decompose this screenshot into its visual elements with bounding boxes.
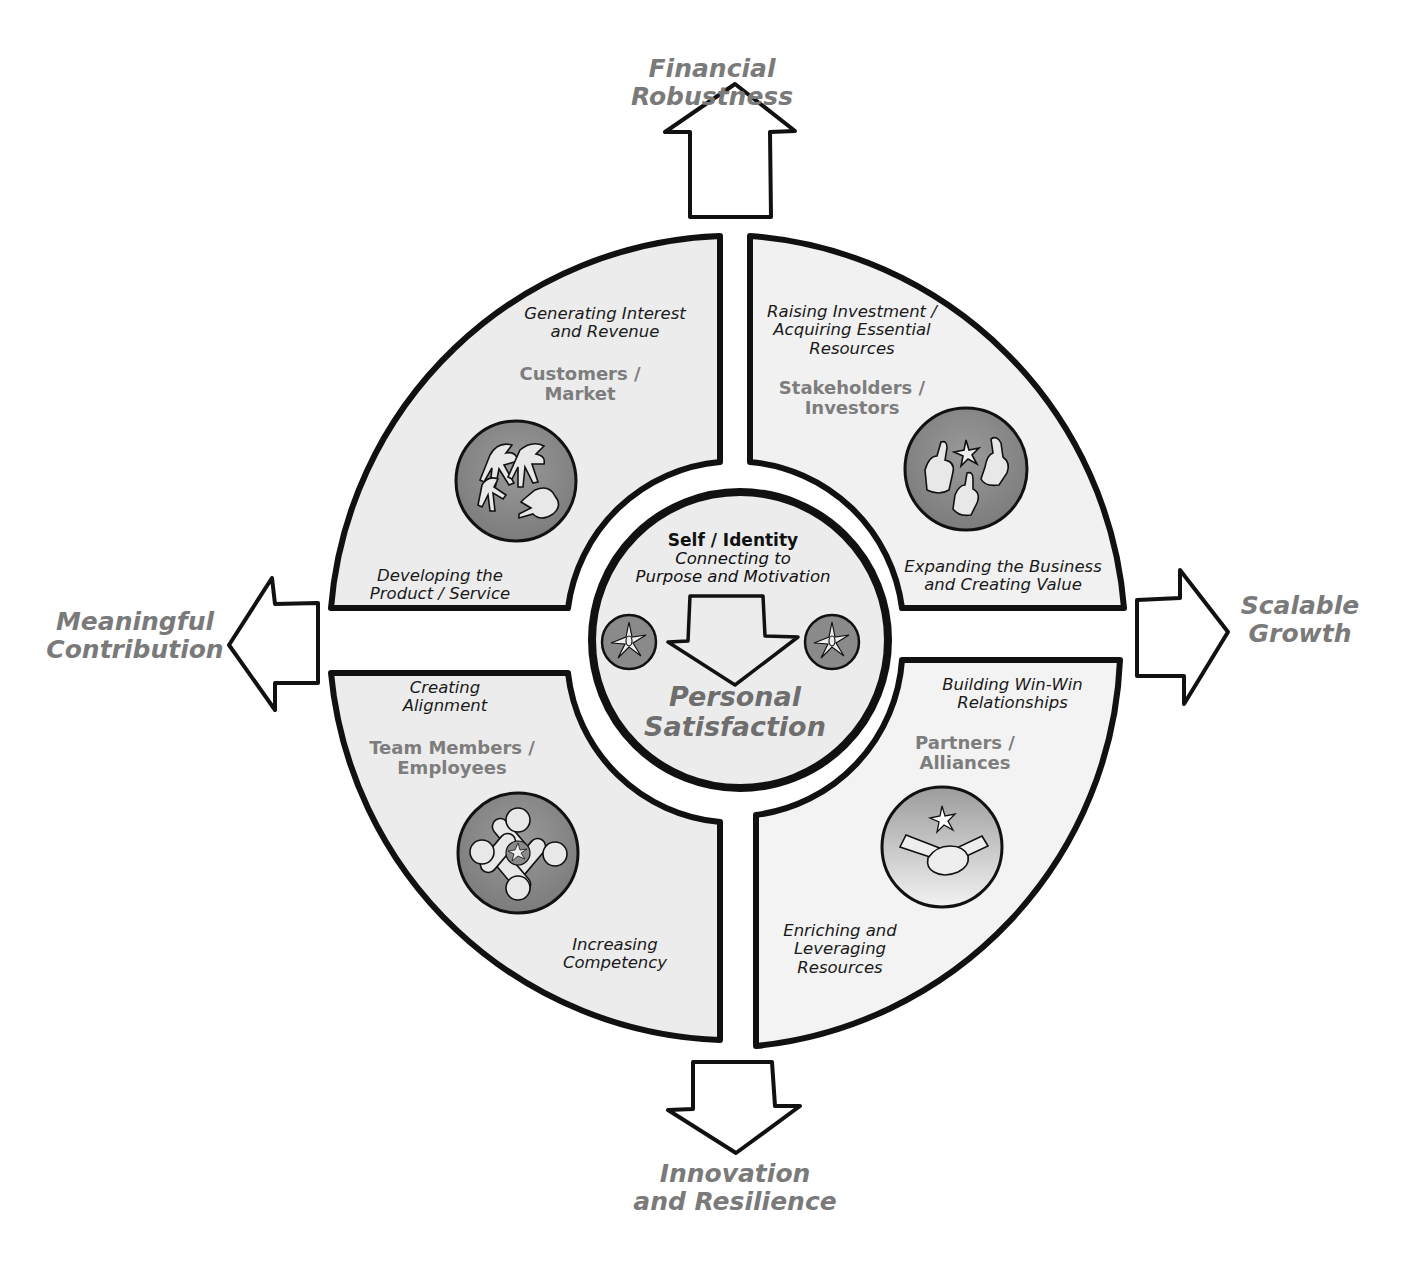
center-sub-line: Purpose and Motivation [603, 568, 863, 586]
stakeholder-line: Team Members / [352, 738, 552, 758]
outcome-line: Robustness [612, 83, 812, 111]
stakeholder-line: Alliances [905, 753, 1025, 773]
outcome-label-bottom: Innovation and Resilience [610, 1160, 860, 1216]
arrow-down-icon [668, 1062, 800, 1153]
outcome-label-top: Financial Robustness [612, 55, 812, 111]
activity-line: Product / Service [340, 585, 540, 603]
center-subtitle: Connecting to Purpose and Motivation [603, 550, 863, 587]
center-sub-line: Connecting to [603, 550, 863, 568]
stakeholder-line: Customers / [480, 364, 680, 384]
outcome-line: Contribution [30, 636, 240, 664]
outcome-label-left: Meaningful Contribution [30, 608, 240, 664]
activity-expanding-business: Expanding the Business and Creating Valu… [888, 558, 1118, 595]
activity-line: Raising Investment / [752, 303, 952, 321]
stakeholder-line: Market [480, 384, 680, 404]
center-title: Self / Identity [633, 531, 833, 550]
activity-line: Competency [545, 954, 685, 972]
spark-icon [805, 615, 859, 669]
activity-line: and Revenue [500, 323, 710, 341]
stakeholder-partners: Partners / Alliances [905, 733, 1025, 773]
arrow-right-icon [1137, 570, 1228, 704]
stakeholder-customers: Customers / Market [480, 364, 680, 404]
outcome-line: Innovation [610, 1160, 860, 1188]
stakeholder-investors: Stakeholders / Investors [752, 378, 952, 418]
activity-increasing-competency: Increasing Competency [545, 936, 685, 973]
linked-hands-icon [458, 793, 578, 913]
stakeholder-line: Employees [352, 758, 552, 778]
activity-raising-investment: Raising Investment / Acquiring Essential… [752, 303, 952, 358]
outcome-label-right: Scalable Growth [1220, 592, 1380, 648]
activity-line: Building Win-Win [925, 676, 1100, 694]
stakeholder-line: Investors [752, 398, 952, 418]
activity-creating-alignment: Creating Alignment [370, 679, 520, 716]
activity-line: Increasing [545, 936, 685, 954]
stakeholder-line: Stakeholders / [752, 378, 952, 398]
spark-icon [602, 615, 656, 669]
outcome-line: and Resilience [610, 1188, 860, 1216]
activity-line: Expanding the Business [888, 558, 1118, 576]
activity-line: Resources [752, 340, 952, 358]
reaching-hands-icon [456, 421, 576, 541]
activity-line: Generating Interest [500, 305, 710, 323]
stakeholder-line: Partners / [905, 733, 1025, 753]
arrow-left-icon [229, 578, 318, 710]
activity-line: and Creating Value [888, 576, 1118, 594]
activity-line: Relationships [925, 694, 1100, 712]
outcome-line: Growth [1220, 620, 1380, 648]
stakeholder-team-members: Team Members / Employees [352, 738, 552, 778]
center-personal-satisfaction: Personal Satisfaction [620, 682, 850, 742]
handshake-icon [882, 787, 1002, 907]
activity-line: Creating [370, 679, 520, 697]
activity-line: Enriching and [765, 922, 915, 940]
activity-enriching-resources: Enriching and Leveraging Resources [765, 922, 915, 977]
outcome-line: Scalable [1220, 592, 1380, 620]
outcome-line: Meaningful [30, 608, 240, 636]
thumbs-up-icon [905, 408, 1027, 530]
activity-line: Alignment [370, 697, 520, 715]
activity-building-win-win: Building Win-Win Relationships [925, 676, 1100, 713]
activity-line: Leveraging [765, 940, 915, 958]
activity-developing-product: Developing the Product / Service [340, 567, 540, 604]
center-big-line: Satisfaction [620, 712, 850, 742]
activity-line: Acquiring Essential [752, 321, 952, 339]
activity-line: Resources [765, 959, 915, 977]
activity-line: Developing the [340, 567, 540, 585]
outcome-line: Financial [612, 55, 812, 83]
center-big-line: Personal [620, 682, 850, 712]
activity-generating-interest: Generating Interest and Revenue [500, 305, 710, 342]
